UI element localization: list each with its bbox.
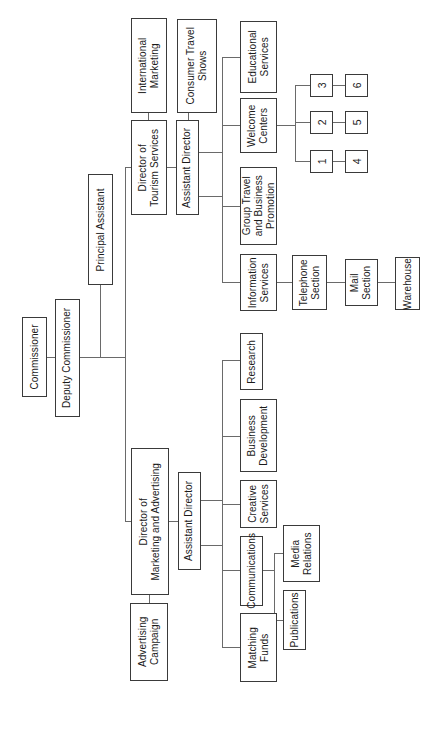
connector-spine-to-wc3 — [295, 85, 310, 86]
connector-spine-to-educational — [222, 57, 240, 58]
node-director-marketing-advertising-label: Director of Marketing and Advertising — [138, 463, 162, 581]
connector-spine-to-information-services — [222, 282, 240, 283]
node-welcome-center-2[interactable]: 2 — [310, 111, 333, 134]
connector-wc2-to-wc5 — [333, 122, 345, 123]
node-group-travel-business-promotion[interactable]: Group Travel and Business Promotion — [240, 167, 277, 245]
node-research[interactable]: Research — [240, 333, 263, 390]
node-telephone-section[interactable]: Telephone Section — [292, 255, 327, 310]
node-commissioner[interactable]: Commissioner — [22, 317, 47, 397]
connector-wc3-to-wc6 — [333, 85, 345, 86]
node-welcome-center-4[interactable]: 4 — [345, 150, 368, 173]
node-communications[interactable]: Communications — [240, 536, 263, 606]
node-deputy-commissioner[interactable]: Deputy Commissioner — [55, 299, 80, 417]
node-welcome-center-4-label: 4 — [350, 159, 362, 165]
connector-communications-children-spine — [274, 553, 275, 620]
connector-spine-to-media-relations — [274, 553, 283, 554]
node-warehouse-label: Warehouse — [402, 258, 414, 310]
node-media-relations[interactable]: Media Relations — [283, 525, 320, 582]
connector-marketing-to-advertising — [149, 595, 150, 603]
connector-spine-to-creative-services — [222, 504, 240, 505]
node-assistant-director-tourism-label: Assistant Director — [182, 127, 194, 207]
node-group-travel-business-promotion-label: Group Travel and Business Promotion — [241, 175, 276, 236]
node-mail-section-label: Mail Section — [350, 265, 374, 299]
node-consumer-travel-shows[interactable]: Consumer Travel Shows — [177, 19, 217, 113]
connector-deputy-to-directors — [100, 357, 125, 358]
connector-mail-to-warehouse — [378, 282, 395, 283]
connector-spine-to-group-travel — [222, 206, 240, 207]
connector-spine-to-business-development — [222, 436, 240, 437]
connector-assistant-tourism-out-top — [198, 152, 222, 153]
connector-directors-spine — [125, 167, 126, 522]
connector-assistant-tourism-out-bottom — [198, 196, 222, 197]
node-matching-funds[interactable]: Matching Funds — [240, 613, 277, 682]
node-international-marketing-label: International Marketing — [137, 37, 161, 93]
node-welcome-center-1-label: 1 — [315, 159, 327, 165]
node-welcome-center-5[interactable]: 5 — [345, 111, 368, 134]
node-creative-services-label: Creative Services — [247, 484, 271, 523]
node-commissioner-label: Commissioner — [29, 324, 41, 389]
node-information-services-label: Information Services — [247, 257, 271, 308]
connector-assistant-marketing-out-bottom — [200, 545, 222, 546]
node-educational-services[interactable]: Educational Services — [240, 21, 277, 93]
node-publications[interactable]: Publications — [283, 590, 306, 650]
node-research-label: Research — [246, 340, 258, 384]
node-director-marketing-advertising[interactable]: Director of Marketing and Advertising — [131, 448, 169, 595]
node-business-development-label: Business Development — [247, 405, 271, 465]
node-consumer-travel-shows-label: Consumer Travel Shows — [185, 27, 209, 105]
node-advertising-campaign[interactable]: Advertising Campaign — [130, 603, 168, 681]
node-educational-services-label: Educational Services — [247, 30, 271, 83]
connector-assistant-marketing-out-top — [200, 500, 222, 501]
node-welcome-center-3[interactable]: 3 — [310, 74, 333, 97]
node-director-tourism-services-label: Director of Tourism Services — [137, 129, 161, 207]
connector-numbers-spine — [295, 85, 296, 161]
node-welcome-center-3-label: 3 — [315, 83, 327, 89]
node-principal-assistant[interactable]: Principal Assistant — [88, 174, 113, 285]
node-welcome-centers[interactable]: Welcome Centers — [240, 98, 277, 153]
node-information-services[interactable]: Information Services — [240, 254, 277, 311]
node-assistant-director-marketing[interactable]: Assistant Director — [178, 472, 201, 570]
connector-welcome-to-numbers — [277, 125, 295, 126]
node-matching-funds-label: Matching Funds — [247, 627, 271, 668]
node-publications-label: Publications — [289, 592, 301, 647]
connector-spine-to-wc2 — [295, 122, 310, 123]
connector-telephone-to-mail — [327, 282, 345, 283]
connector-spine-to-research — [222, 360, 240, 361]
node-deputy-commissioner-label: Deputy Commissioner — [62, 308, 74, 408]
node-principal-assistant-label: Principal Assistant — [95, 188, 107, 271]
connector-principal-assistant-stem — [100, 285, 101, 286]
node-assistant-director-tourism[interactable]: Assistant Director — [176, 120, 199, 215]
connector-information-to-telephone — [277, 282, 292, 283]
org-chart-canvas: Commissioner Deputy Commissioner Princip… — [0, 0, 434, 734]
node-welcome-centers-label: Welcome Centers — [247, 104, 271, 146]
node-director-tourism-services[interactable]: Director of Tourism Services — [131, 120, 167, 215]
connector-spine-to-welcome-centers — [222, 125, 240, 126]
connector-tourism-units-spine — [222, 57, 223, 283]
node-communications-label: Communications — [246, 533, 258, 609]
node-welcome-center-5-label: 5 — [350, 120, 362, 126]
connector-spine-to-wc1 — [295, 161, 310, 162]
node-welcome-center-6[interactable]: 6 — [345, 74, 368, 97]
node-mail-section[interactable]: Mail Section — [345, 259, 378, 306]
connector-spine-to-matching-funds — [222, 647, 240, 648]
node-international-marketing[interactable]: International Marketing — [131, 18, 167, 113]
node-advertising-campaign-label: Advertising Campaign — [137, 617, 161, 668]
node-business-development[interactable]: Business Development — [240, 399, 277, 472]
node-welcome-center-1[interactable]: 1 — [310, 150, 333, 173]
node-media-relations-label: Media Relations — [290, 532, 314, 575]
node-welcome-center-6-label: 6 — [350, 83, 362, 89]
node-creative-services[interactable]: Creative Services — [240, 480, 277, 528]
node-telephone-section-label: Telephone Section — [298, 259, 322, 306]
connector-communications-to-children — [263, 570, 274, 571]
connector-wc1-to-wc4 — [333, 161, 345, 162]
node-assistant-director-marketing-label: Assistant Director — [184, 481, 196, 561]
connector-marketing-to-assistant — [169, 521, 178, 522]
node-warehouse[interactable]: Warehouse — [395, 257, 420, 310]
connector-spine-to-communications — [222, 570, 240, 571]
node-welcome-center-2-label: 2 — [315, 120, 327, 126]
